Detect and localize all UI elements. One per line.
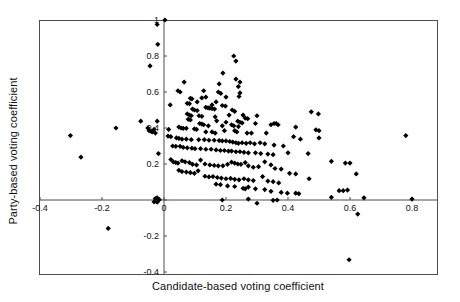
scatter-plot-canvas: -0.4-0.200.20.40.60.8-0.4-0.200.20.40.60… <box>0 0 460 302</box>
plot-frame-border <box>40 21 438 275</box>
x-axis-tick-label: -0.2 <box>94 203 110 213</box>
y-axis-tick-label: 0.2 <box>146 159 159 169</box>
scatter-plot-figure: -0.4-0.200.20.40.60.8-0.4-0.200.20.40.60… <box>0 0 460 302</box>
x-axis-tick-label: 0.2 <box>220 203 233 213</box>
y-axis-tick-label: 0.6 <box>146 87 159 97</box>
y-axis-tick-label: -0.2 <box>143 231 159 241</box>
x-axis-tick-label: 0.6 <box>344 203 357 213</box>
y-axis-tick-label: 0.8 <box>146 51 159 61</box>
x-axis-tick-label: 0 <box>161 203 166 213</box>
y-axis-tick-label: -0.4 <box>143 267 159 277</box>
y-axis-label: Party-based voting coefficient <box>0 0 26 302</box>
x-axis-tick-label: 0.4 <box>282 203 295 213</box>
x-axis-label: Candidate-based voting coefficient <box>39 280 437 292</box>
x-axis-tick-label: -0.4 <box>32 203 48 213</box>
x-axis-tick-label: 0.8 <box>406 203 419 213</box>
